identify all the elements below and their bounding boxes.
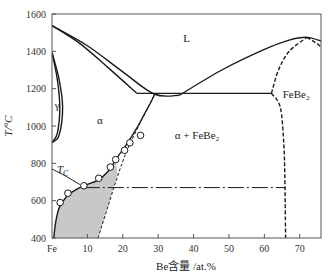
x-tick-label: 50	[224, 243, 234, 254]
curve-alpha-solvus-metastable	[98, 94, 155, 238]
x-tick-label: 20	[118, 243, 128, 254]
y-tick-label: 1200	[26, 83, 46, 94]
x-tick-label: 40	[189, 243, 199, 254]
region-label: α	[97, 114, 103, 126]
y-tick-label: 800	[31, 158, 46, 169]
y-tick-label: 400	[31, 233, 46, 244]
x-axis-title: Be含量 /at.%	[156, 259, 216, 272]
region-label: L	[183, 32, 190, 44]
curve-liquidus-right	[179, 37, 321, 95]
phase-diagram-chart: Fe10203040506070400600800100012001400160…	[0, 0, 332, 275]
data-point-marker	[95, 175, 102, 182]
curve-gamma-loop-outer	[52, 52, 63, 142]
region-label: FeBe₂	[283, 88, 310, 100]
data-point-marker	[112, 156, 119, 163]
region-label: γ	[54, 99, 60, 111]
y-tick-label: 600	[31, 195, 46, 206]
data-point-marker	[121, 147, 128, 154]
labels: Be含量 /at.%T/°CLγαα + FeBe₂FeBe₂TC	[2, 32, 310, 272]
region-label: TC	[57, 163, 69, 178]
data-point-marker	[127, 140, 134, 147]
data-point-marker	[65, 190, 72, 197]
y-axis-title: T/°C	[2, 115, 14, 137]
x-tick-label: 60	[259, 243, 269, 254]
x-tick-label: 10	[82, 243, 92, 254]
curve-solidus-alpha	[52, 26, 137, 94]
x-tick-label: 30	[153, 243, 163, 254]
data-point-marker	[107, 164, 114, 171]
curve-FeBe2-left-boundary-lower	[271, 93, 285, 238]
x-tick-label: 70	[295, 243, 305, 254]
x-tick-label: Fe	[47, 243, 58, 254]
data-point-marker	[57, 199, 64, 206]
curve-FeBe2-left-boundary-upper	[271, 37, 306, 93]
y-tick-label: 1400	[26, 46, 46, 57]
data-point-marker	[81, 182, 88, 189]
region-label: α + FeBe₂	[175, 129, 220, 141]
data-point-marker	[137, 132, 144, 139]
y-tick-label: 1000	[26, 121, 46, 132]
curve-liquidus-left	[52, 26, 179, 97]
y-tick-label: 1600	[26, 9, 46, 20]
